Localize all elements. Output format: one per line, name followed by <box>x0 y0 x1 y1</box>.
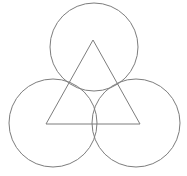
figure-canvas: Three tangent circles with inscribed equ… <box>0 0 187 176</box>
bottom-right-circle <box>92 79 180 167</box>
top-circle <box>50 3 138 91</box>
geometry-diagram <box>0 0 187 176</box>
bottom-left-circle <box>9 79 97 167</box>
